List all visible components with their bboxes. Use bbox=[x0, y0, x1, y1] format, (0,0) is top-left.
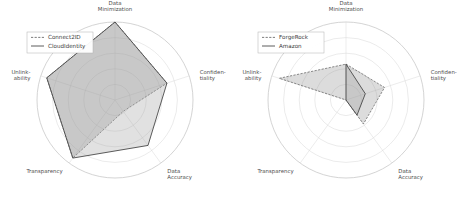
axis-label: Unlink-ability bbox=[242, 69, 262, 82]
axis-label: Transparency bbox=[256, 168, 294, 175]
axis-label: DataAccuracy bbox=[398, 168, 424, 181]
radar-panel-right: DataMinimizationConfiden-tialityDataAccu… bbox=[231, 0, 461, 206]
axis-label: DataAccuracy bbox=[167, 168, 193, 181]
legend: ForgeRockAmazon bbox=[258, 32, 324, 53]
axis-label: Confiden-tiality bbox=[430, 69, 456, 82]
radar-svg-left: DataMinimizationConfiden-tialityDataAccu… bbox=[0, 0, 231, 206]
legend: Connect2IDCloudIdentity bbox=[27, 32, 93, 53]
legend-label-2: CloudIdentity bbox=[48, 43, 86, 50]
axis-label: Transparency bbox=[25, 168, 63, 175]
series-polygon-1 bbox=[279, 64, 384, 124]
radar-svg-right: DataMinimizationConfiden-tialityDataAccu… bbox=[231, 0, 461, 206]
axis-spoke bbox=[300, 100, 346, 163]
series-group bbox=[279, 64, 384, 124]
axis-label: DataMinimization bbox=[328, 0, 363, 12]
legend-label-1: Connect2ID bbox=[48, 34, 81, 40]
radar-chart-figure: DataMinimizationConfiden-tialityDataAccu… bbox=[0, 0, 461, 206]
axis-label: Confiden-tiality bbox=[200, 69, 226, 82]
legend-label-2: Amazon bbox=[279, 43, 302, 49]
axis-label: DataMinimization bbox=[98, 0, 133, 12]
axis-label: Unlink-ability bbox=[11, 69, 31, 82]
radar-panel-left: DataMinimizationConfiden-tialityDataAccu… bbox=[0, 0, 231, 206]
legend-label-1: ForgeRock bbox=[279, 34, 309, 41]
